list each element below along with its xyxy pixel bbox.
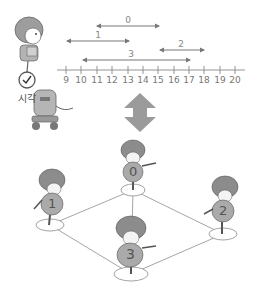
node-label-1: 1 bbox=[48, 196, 56, 211]
tick-label: 14 bbox=[137, 75, 148, 85]
clock-icon bbox=[19, 72, 35, 88]
time-label: 시각 bbox=[18, 90, 36, 105]
person-node-0 bbox=[121, 140, 156, 190]
interval-label-1: 1 bbox=[95, 30, 101, 40]
node-label-0: 0 bbox=[129, 164, 137, 179]
tick-label: 15 bbox=[152, 75, 163, 85]
tick-label: 13 bbox=[122, 75, 133, 85]
tick-label: 9 bbox=[63, 75, 69, 85]
tick-label: 12 bbox=[106, 75, 117, 85]
node-label-3: 3 bbox=[126, 246, 135, 262]
tick-label: 20 bbox=[229, 75, 240, 85]
node-label-2: 2 bbox=[219, 203, 227, 218]
tick-label: 19 bbox=[214, 75, 225, 85]
tick-label: 17 bbox=[183, 75, 194, 85]
interval-label-3: 3 bbox=[128, 49, 134, 59]
tick-label: 18 bbox=[198, 75, 209, 85]
bidirectional-arrow-icon bbox=[124, 93, 156, 132]
robot-icon bbox=[32, 90, 73, 130]
tick-label: 10 bbox=[75, 75, 86, 85]
interval-label-0: 0 bbox=[125, 15, 131, 25]
time-axis bbox=[57, 66, 245, 74]
time-character-icon bbox=[15, 17, 43, 72]
tick-label: 16 bbox=[168, 75, 179, 85]
interval-label-2: 2 bbox=[178, 39, 184, 49]
tick-label: 11 bbox=[91, 75, 102, 85]
